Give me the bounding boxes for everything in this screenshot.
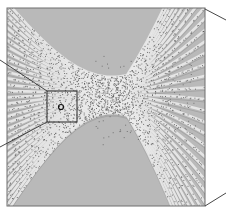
micrograph-image [7,0,208,215]
stripe-pattern-figure [0,0,226,215]
